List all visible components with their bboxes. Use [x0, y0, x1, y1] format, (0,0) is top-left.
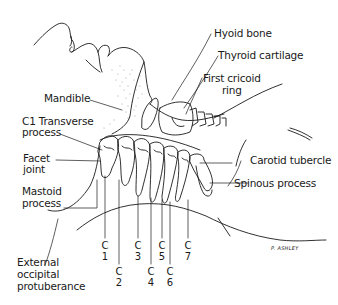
clavicle-line [290, 128, 312, 138]
label-carotid-tubercle: Carotid tubercle [250, 155, 331, 167]
label-mandible: Mandible [44, 93, 90, 105]
label-external-occipital-line1: External [17, 257, 59, 269]
label-c1-transverse-line2: process [22, 127, 61, 139]
neck-muscle-line [236, 140, 246, 166]
label-first-cricoid-ring-line2: ring [222, 85, 242, 97]
back-of-neck-outline [77, 204, 326, 241]
shoulder-crease [218, 218, 230, 236]
mandible-shading [104, 66, 143, 129]
label-spinous-process: Spinous process [234, 178, 316, 190]
label-facet-joint-line2: joint [23, 164, 45, 176]
cervical-vertebrae [98, 135, 213, 204]
cervical-spine-diagram: Hyoid bone Thyroid cartilage First crico… [0, 0, 338, 305]
label-external-occipital-line3: protuberance [17, 281, 85, 293]
leader-lines [45, 34, 248, 265]
label-hyoid-bone: Hyoid bone [214, 28, 272, 40]
label-thyroid-cartilage: Thyroid cartilage [218, 50, 303, 62]
label-first-cricoid-ring-line1: First cricoid [203, 73, 261, 85]
artist-signature: P. ASHLEY [271, 245, 299, 251]
label-mastoid-line1: Mastoid [22, 186, 62, 198]
label-mastoid-line2: process [22, 198, 61, 210]
label-external-occipital-line2: occipital [17, 269, 59, 281]
mandible-outline [112, 62, 144, 134]
